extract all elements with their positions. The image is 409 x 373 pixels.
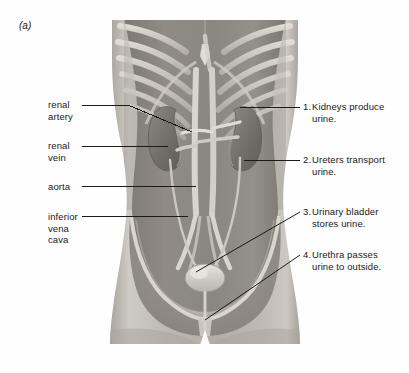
label-urinary-bladder-number: 3. (303, 206, 312, 218)
label-renal-artery: renal artery (48, 99, 73, 122)
label-inferior-vena-cava: inferior vena cava (48, 211, 78, 246)
label-urethra-number: 4. (303, 249, 312, 261)
urinary-bladder (185, 264, 225, 292)
panel-letter: (a) (19, 20, 31, 31)
label-ureters-line2: urine. (303, 166, 385, 178)
kidney-left (148, 107, 180, 171)
label-ureters-line1: Ureters transport (312, 154, 385, 165)
label-urinary-bladder-line1: Urinary bladder (312, 206, 378, 217)
label-urethra-line1: Urethra passes (312, 249, 378, 260)
label-kidneys: 1.Kidneys produceurine. (303, 101, 384, 124)
label-kidneys-number: 1. (303, 101, 312, 113)
label-kidneys-line2: urine. (303, 113, 384, 125)
label-aorta: aorta (48, 181, 70, 193)
label-urinary-bladder-line2: stores urine. (303, 218, 378, 230)
label-ureters: 2.Ureters transporturine. (303, 154, 385, 177)
label-renal-vein: renal vein (48, 140, 70, 163)
figure-urinary-system: (a) renal artery renal vein aorta inferi… (0, 0, 409, 373)
label-ureters-number: 2. (303, 154, 312, 166)
label-urethra: 4.Urethra passesurine to outside. (303, 249, 381, 272)
label-urinary-bladder: 3.Urinary bladderstores urine. (303, 206, 378, 229)
label-urethra-line2: urine to outside. (303, 261, 381, 273)
label-kidneys-line1: Kidneys produce (312, 101, 384, 112)
